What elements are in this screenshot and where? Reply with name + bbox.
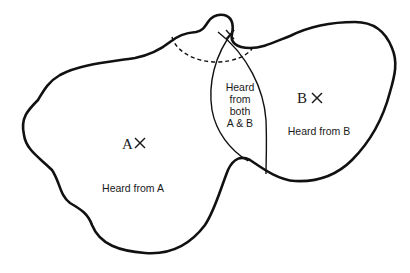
- overlap-line-4: A & B: [227, 117, 253, 129]
- source-b-letter: B: [297, 90, 307, 106]
- source-a-cross-icon: [135, 138, 145, 148]
- overlap-line-3: both: [230, 105, 251, 117]
- source-a-letter: A: [122, 136, 133, 152]
- overlap-line-2: from: [230, 93, 251, 105]
- region-b-label: Heard from B: [288, 125, 350, 137]
- region-a-label: Heard from A: [102, 182, 164, 194]
- source-b-cross-icon: [312, 93, 322, 103]
- overlap-line-1: Heard: [226, 81, 255, 93]
- overlap-label: Heard from both A & B: [226, 81, 255, 129]
- hearing-region-diagram: A Heard from A B Heard from B Heard from…: [0, 0, 410, 273]
- dashed-arc: [172, 37, 252, 62]
